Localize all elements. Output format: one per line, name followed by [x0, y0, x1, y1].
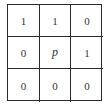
- cell-r1-c2: 1: [71, 37, 103, 69]
- cell-r2-c2: 0: [71, 69, 103, 102]
- cell-r2-c1: 0: [40, 69, 71, 102]
- center-pixel-label: p: [40, 37, 71, 69]
- cell-r0-c2: 0: [71, 5, 103, 37]
- cell-r2-c0: 0: [8, 69, 40, 102]
- cell-r0-c0: 1: [8, 5, 40, 37]
- cell-r0-c1: 1: [40, 5, 71, 37]
- cell-r1-c0: 0: [8, 37, 40, 69]
- neighborhood-grid: 1 1 0 0 p 1 0 0 0: [7, 4, 102, 101]
